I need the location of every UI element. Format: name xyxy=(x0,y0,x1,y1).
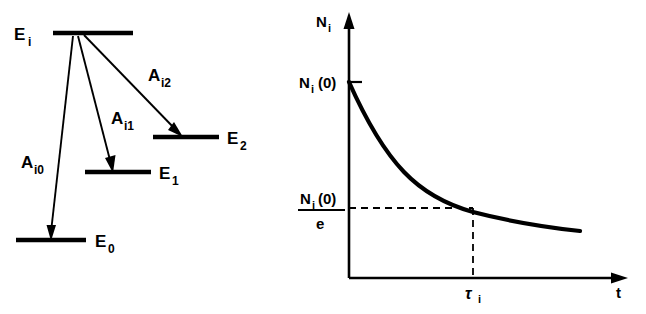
transition-arrow-ai1 xyxy=(78,36,111,164)
y-label-lifetime-numerator-arg: (0) xyxy=(318,190,336,207)
transition-arrow-ai0 xyxy=(51,36,73,232)
decay-curve-path xyxy=(349,82,580,231)
decay-curve-plot: N i t N i (0) N i (0) e τ i xyxy=(298,12,628,305)
energy-level-label-e0-base: E xyxy=(95,232,106,251)
x-axis-label: t xyxy=(616,284,621,301)
y-label-initial-sub: i xyxy=(311,83,314,95)
figure-root: E i E 2 E 1 E 0 A i0 A i1 xyxy=(0,0,646,314)
x-label-lifetime-sub: i xyxy=(478,293,481,305)
energy-level-diagram: E i E 2 E 1 E 0 A i0 A i1 xyxy=(14,25,247,256)
y-axis-arrowhead xyxy=(344,12,355,29)
energy-level-label-ei-base: E xyxy=(14,25,25,44)
transition-label-ai0-base: A xyxy=(21,153,33,172)
transition-label-ai1-base: A xyxy=(111,109,123,128)
energy-level-label-e2-sub: 2 xyxy=(240,139,247,153)
energy-level-label-ei-sub: i xyxy=(28,35,31,49)
y-label-lifetime-denominator: e xyxy=(316,215,324,232)
x-axis-arrowhead xyxy=(611,273,628,284)
y-axis-label-sub: i xyxy=(328,22,331,34)
figure-canvas: E i E 2 E 1 E 0 A i0 A i1 xyxy=(0,0,646,314)
transition-label-ai2-base: A xyxy=(148,66,160,85)
energy-level-label-e1-sub: 1 xyxy=(172,174,179,188)
energy-level-label-e0-sub: 0 xyxy=(108,242,115,256)
y-label-lifetime-numerator-base: N xyxy=(300,190,311,207)
energy-level-label-e2-base: E xyxy=(227,129,238,148)
x-label-lifetime-symbol: τ xyxy=(465,285,473,302)
energy-level-label-e1-base: E xyxy=(159,164,170,183)
y-label-initial-base: N xyxy=(299,74,310,91)
y-axis-label-base: N xyxy=(316,13,327,30)
transition-label-ai0-sub: i0 xyxy=(34,163,44,177)
y-label-initial-arg: (0) xyxy=(318,74,336,91)
transition-label-ai1-sub: i1 xyxy=(124,119,134,133)
transition-label-ai2-sub: i2 xyxy=(161,76,171,90)
